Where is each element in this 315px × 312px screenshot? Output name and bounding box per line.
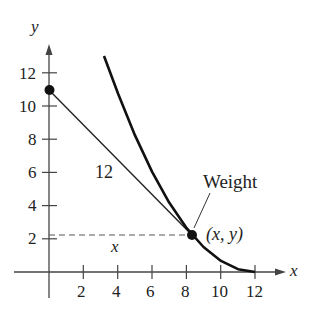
- y-axis-label: y: [31, 18, 39, 35]
- leader-line: [194, 193, 210, 228]
- y-tick-label: 12: [19, 65, 36, 82]
- y-tick-label: 4: [28, 197, 37, 214]
- segment-line: [49, 90, 192, 235]
- diagram-canvas: [0, 0, 315, 312]
- point-label: (x, y): [206, 225, 243, 243]
- y-tick-label: 2: [28, 230, 37, 247]
- x-tick-label: 12: [246, 283, 263, 300]
- segment-length-label: 12: [95, 163, 113, 181]
- x-axis-label: x: [290, 262, 298, 279]
- x-tick-label: 6: [146, 283, 155, 300]
- y-axis-arrow-icon: [46, 44, 53, 55]
- point-start: [45, 85, 55, 95]
- x-tick-label: 2: [77, 283, 86, 300]
- weight-annotation: Weight: [203, 172, 257, 191]
- y-tick-label: 6: [28, 164, 37, 181]
- point-weight: [187, 230, 197, 240]
- y-tick-label: 8: [28, 131, 37, 148]
- x-axis-arrow-icon: [275, 269, 286, 276]
- dashed-length-label: x: [111, 238, 119, 255]
- x-tick-label: 4: [112, 283, 121, 300]
- y-tick-label: 10: [19, 98, 36, 115]
- x-tick-label: 10: [211, 283, 228, 300]
- x-tick-label: 8: [181, 283, 190, 300]
